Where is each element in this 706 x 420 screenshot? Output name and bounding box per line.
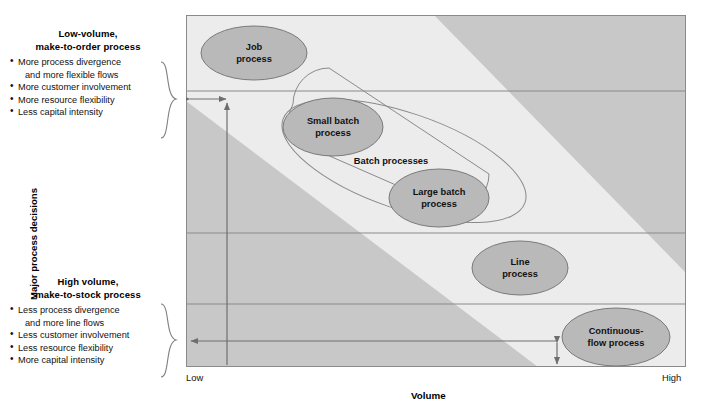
node-small-batch-process[interactable]: Small batch process (283, 98, 383, 156)
list-item: •Less capital intensity (8, 106, 168, 118)
figure-root: Low-volume, make-to-order process •More … (0, 0, 706, 420)
list-item-label: More capital intensity (18, 355, 104, 365)
node-large-batch-process[interactable]: Large batch process (389, 169, 489, 227)
low-volume-annotation-block: Low-volume, make-to-order process •More … (8, 28, 168, 119)
list-item-label: More customer involvement (18, 82, 131, 92)
node-continuous-flow-process-label-line2: flow process (588, 338, 645, 348)
node-small-batch-process-label-line2: process (315, 128, 351, 138)
node-small-batch-process-shape[interactable] (283, 98, 383, 156)
list-item-label: More process divergence (18, 57, 121, 67)
node-line-process-shape[interactable] (472, 241, 568, 295)
list-item-label: Less customer involvement (18, 330, 129, 340)
list-item-label: and more flexible flows (25, 70, 118, 80)
bullet-icon: • (10, 105, 14, 117)
node-continuous-flow-process-label-line1: Continuous- (589, 326, 644, 336)
list-item-label: More resource flexibility (18, 95, 115, 105)
bullet-icon: • (10, 353, 14, 365)
brace-top-icon (161, 62, 176, 138)
list-item: •More process divergence (8, 56, 168, 68)
list-item: •Less resource flexibility (8, 342, 168, 354)
node-small-batch-process-label-line1: Small batch (307, 116, 360, 126)
list-item: •More resource flexibility (8, 94, 168, 106)
y-axis-label: Major process decisions (28, 188, 39, 300)
list-item-label: Less capital intensity (18, 107, 103, 117)
list-item: and more flexible flows (8, 69, 168, 81)
bullet-icon: • (10, 93, 14, 105)
node-line-process-label-line1: Line (510, 257, 529, 267)
bullet-icon: • (10, 303, 14, 315)
low-volume-bullet-list: •More process divergence and more flexib… (8, 56, 168, 118)
node-job-process-label-line1: Job (246, 42, 263, 52)
low-volume-title: Low-volume, make-to-order process (8, 28, 168, 53)
list-item: •Less process divergence (8, 304, 168, 316)
x-axis-tick-low: Low (186, 372, 203, 383)
node-large-batch-process-label-line2: process (421, 199, 457, 209)
list-item: •More customer involvement (8, 81, 168, 93)
low-volume-title-line1: Low-volume, (58, 28, 117, 39)
x-axis-tick-high: High (662, 372, 681, 383)
node-line-process[interactable]: Line process (472, 241, 568, 295)
plot-svg: Job process Small batch process Large ba… (186, 15, 686, 367)
node-job-process[interactable]: Job process (201, 26, 307, 80)
list-item-label: Less resource flexibility (18, 343, 113, 353)
plot-area: Job process Small batch process Large ba… (186, 15, 686, 367)
node-line-process-label-line2: process (502, 269, 538, 279)
bullet-icon: • (10, 80, 14, 92)
list-item: •More capital intensity (8, 354, 168, 366)
node-job-process-label-line2: process (236, 54, 272, 64)
high-volume-title-line2: make-to-stock process (35, 289, 141, 300)
node-continuous-flow-process[interactable]: Continuous- flow process (562, 308, 670, 366)
brace-bottom-icon (161, 304, 176, 377)
bullet-icon: • (10, 328, 14, 340)
low-volume-title-line2: make-to-order process (35, 41, 140, 52)
list-item: •Less customer involvement (8, 329, 168, 341)
list-item: and more line flows (8, 317, 168, 329)
high-volume-bullet-list: •Less process divergence and more line f… (8, 304, 168, 366)
list-item-label: and more line flows (25, 318, 104, 328)
batch-group-label: Batch processes (354, 156, 428, 166)
brace-group (157, 30, 185, 390)
node-continuous-flow-process-shape[interactable] (562, 308, 670, 366)
node-large-batch-process-label-line1: Large batch (413, 187, 466, 197)
node-job-process-shape[interactable] (201, 26, 307, 80)
bullet-icon: • (10, 341, 14, 353)
high-volume-title-line1: High volume, (58, 276, 119, 287)
bullet-icon: • (10, 55, 14, 67)
node-large-batch-process-shape[interactable] (389, 169, 489, 227)
list-item-label: Less process divergence (18, 305, 120, 315)
x-axis-label: Volume (411, 390, 446, 401)
